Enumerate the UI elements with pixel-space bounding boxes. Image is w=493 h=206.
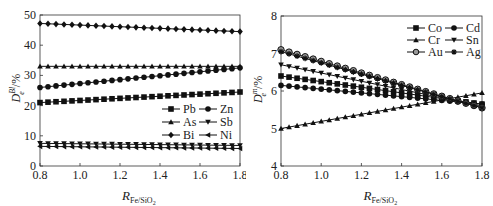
square-marker [53,99,59,105]
x-axis-label: RFe/SiO2 [363,188,398,206]
square-marker [359,84,365,90]
legend-label-ag: Ag [466,45,481,59]
y-tick-label: 4 [271,159,277,173]
x-tick-label: 1.8 [233,168,247,182]
y-tick-label: 5 [271,122,277,136]
diamond-marker [117,23,123,30]
star-marker [415,87,421,93]
diamond-marker [45,20,51,27]
circle-marker [85,80,91,86]
square-marker [165,93,171,99]
square-marker [286,74,292,80]
star-marker [367,74,373,80]
circle-marker [181,71,187,77]
x-tick-label: 1.2 [113,168,128,182]
square-marker [125,95,131,101]
square-marker [93,97,99,103]
square-marker [375,87,381,93]
diamond-marker [229,28,235,35]
circle-marker [173,71,179,77]
square-marker [168,106,174,112]
diamond-marker [168,132,174,139]
circle-marker [326,87,332,93]
diamond-marker [109,23,115,30]
diamond-marker [157,25,163,32]
circle-marker [197,69,203,75]
circle-marker [359,90,365,96]
legend-label-zn: Zn [220,102,233,116]
circle-marker [53,83,59,89]
circle-marker [367,91,373,97]
square-marker [149,94,155,100]
y-tick-label: 10 [24,129,36,143]
square-marker [101,96,107,102]
legend: CoCdCrSnAuAg [407,21,481,59]
circle-marker [391,93,397,99]
star-marker [407,85,413,91]
circle-marker [351,89,357,95]
diamond-marker [237,28,243,35]
square-marker [318,79,324,85]
diamond-marker [173,26,179,33]
circle-marker [141,74,147,80]
series-zn [37,65,243,90]
x-tick-label: 1.6 [434,168,449,182]
circle-marker [93,79,99,85]
legend-label-bi: Bi [183,128,195,142]
triangle-up-marker [479,90,485,95]
diamond-marker [125,24,131,31]
diamond-marker [213,27,219,34]
diamond-marker [141,24,147,31]
left-chart-plot: 0.81.01.21.41.61.801020304050PbZnAsSbBiN… [0,0,246,206]
square-marker [61,99,67,105]
legend-label-as: As [183,115,197,129]
y-tick-label: 7 [271,47,277,61]
legend-label-ni: Ni [220,128,233,142]
circle-marker [278,83,284,89]
circle-marker [399,94,405,100]
square-marker [367,86,373,92]
square-marker [109,96,115,102]
diamond-marker [181,26,187,33]
y-tick-label: 50 [24,8,36,22]
circle-marker [205,68,211,74]
diamond-marker [133,24,139,31]
legend-label-au: Au [428,45,443,59]
series-pb [37,89,243,105]
diamond-marker [221,28,227,35]
square-marker [302,77,308,83]
circle-marker [294,84,300,90]
star-marker [391,80,397,86]
circle-marker [109,78,115,84]
series-bi [37,20,243,35]
square-marker [37,100,43,106]
square-marker [413,25,419,31]
star-marker [278,49,284,55]
square-marker [205,91,211,97]
star-marker [302,56,308,62]
series-cr [278,90,485,131]
y-tick-label: 20 [24,99,36,113]
diamond-marker [197,27,203,34]
diamond-marker [69,21,75,28]
circle-marker [69,82,75,88]
legend-label-pb: Pb [183,102,196,116]
square-marker [278,73,284,79]
square-marker [237,89,243,95]
y-tick-label: 8 [271,9,277,23]
square-marker [157,93,163,99]
circle-marker [407,95,413,101]
diamond-marker [189,26,195,33]
y-axis-label: Dme/% [250,76,268,104]
y-tick-label: 0 [30,159,36,173]
star-marker [479,105,485,111]
circle-marker [125,76,131,82]
diamond-marker [37,20,43,27]
square-marker [77,98,83,104]
circle-marker [77,81,83,87]
diamond-marker [53,21,59,28]
right-chart: 0.81.01.21.41.61.845678CoCdCrSnAuAgDme/%… [246,0,493,206]
square-marker [85,97,91,103]
square-marker [310,78,316,84]
circle-marker [61,82,67,88]
